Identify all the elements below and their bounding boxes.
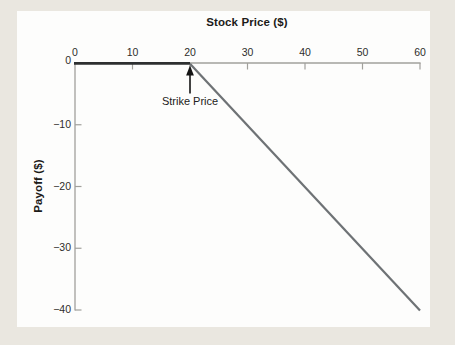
figure-page: Stock Price ($) Payoff ($) Strike Price … [0, 0, 455, 345]
y-tick-label: −40 [29, 303, 71, 316]
x-tick-label: 40 [290, 46, 320, 59]
y-tick-label: −20 [29, 180, 71, 193]
x-tick-label: 10 [118, 46, 148, 59]
y-tick-label: −30 [29, 241, 71, 254]
payoff-line-sloped-segment [190, 64, 420, 311]
x-axis-title: Stock Price ($) [206, 16, 287, 28]
x-tick-label: 60 [405, 46, 435, 59]
x-tick-label: 20 [175, 46, 205, 59]
strike-price-annotation: Strike Price [162, 95, 218, 107]
y-tick-label: 0 [29, 54, 71, 67]
x-tick-label: 50 [348, 46, 378, 59]
y-tick-label: −10 [29, 118, 71, 131]
x-tick-label: 30 [233, 46, 263, 59]
